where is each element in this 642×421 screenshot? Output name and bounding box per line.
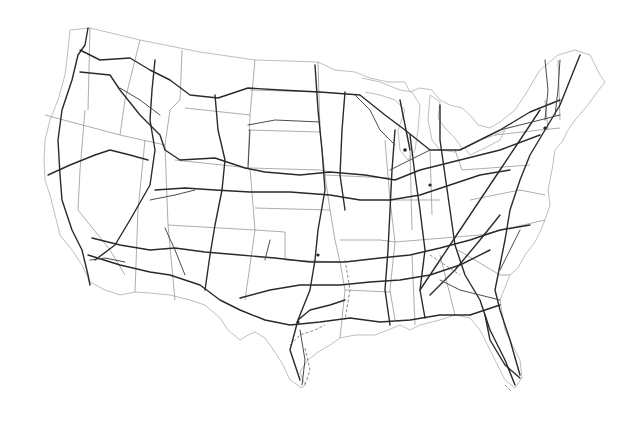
interstate-highways xyxy=(48,28,580,392)
us-highway-map xyxy=(0,0,642,421)
state-borders xyxy=(45,28,560,338)
coastline-outline xyxy=(44,28,605,388)
